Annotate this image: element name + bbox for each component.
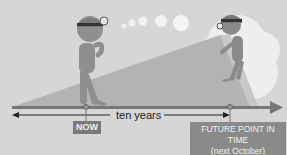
future-label: FUTURE POINT IN TIME (next October) <box>190 122 286 155</box>
span-label: ten years <box>113 109 164 121</box>
thought-bubbles <box>122 15 190 31</box>
time-travel-diagram: ten years NOW FUTURE POINT IN TIME (next… <box>0 0 287 155</box>
time-wedge <box>12 35 258 107</box>
future-label-subtitle: (next October) <box>190 146 286 155</box>
future-label-title: FUTURE POINT IN TIME <box>190 124 286 146</box>
now-marker <box>84 105 89 123</box>
now-label: NOW <box>73 121 101 134</box>
future-marker <box>228 105 233 123</box>
